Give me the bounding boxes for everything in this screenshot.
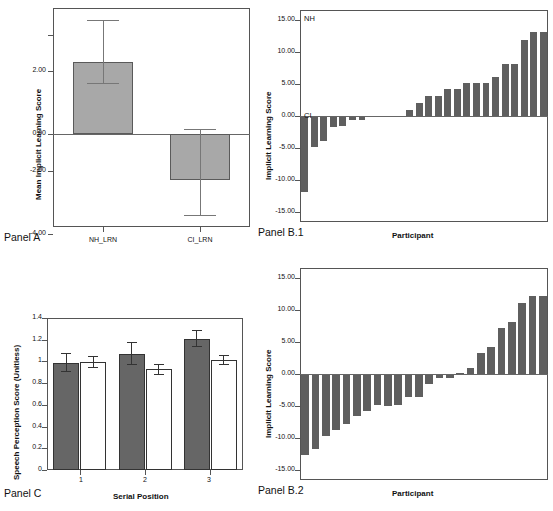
panel-c-error-bar: [184, 330, 210, 347]
y-tick-label: 1.4: [7, 313, 42, 320]
y-tick-mark: [295, 406, 300, 407]
y-tick-mark: [295, 342, 300, 343]
panel-b1-y-axis-title: Implicit Learning Score: [264, 92, 273, 180]
participant-bar: [339, 116, 346, 126]
y-tick-label: 0.00: [258, 369, 295, 376]
participant-bar: [301, 374, 308, 455]
panel-b2: Implicit Learning Score 15.0010.005.000.…: [258, 258, 553, 511]
y-tick-mark: [295, 180, 300, 181]
error-whisker: [196, 330, 197, 347]
participant-bar: [540, 32, 547, 116]
participant-bar: [374, 374, 381, 405]
y-tick-label: 0.4: [7, 422, 42, 429]
participant-bar: [322, 374, 329, 436]
panel-c-error-bar: [119, 342, 145, 365]
y-tick-mark: [295, 438, 300, 439]
y-tick-mark: [42, 361, 47, 362]
y-tick-label: 15.00: [258, 273, 295, 280]
panel-a-xtick-label-nh: NH_LRN: [73, 236, 133, 243]
participant-bar: [312, 374, 319, 449]
panel-a-caption: Panel A: [4, 231, 40, 243]
y-tick-mark: [42, 470, 47, 471]
y-tick-label: 0: [7, 465, 42, 472]
participant-bar: [425, 96, 432, 116]
panel-c-y-axis-title: Speech Perception Score (Unitless): [12, 345, 21, 480]
participant-bar: [487, 347, 494, 374]
participant-bar: [425, 374, 432, 384]
participant-bar: [363, 374, 370, 411]
error-cap: [192, 330, 202, 331]
panel-c-bar-open: [211, 360, 237, 470]
participant-bar: [444, 89, 451, 116]
y-tick-label: -15.00: [258, 465, 295, 472]
participant-bar: [492, 77, 499, 116]
panel-a-tick-2: [48, 71, 53, 72]
y-tick-mark: [295, 212, 300, 213]
participant-bar: [483, 83, 490, 116]
y-tick-label: 0.6: [7, 400, 42, 407]
y-tick-label: -15.00: [258, 207, 295, 214]
participant-bar: [343, 374, 350, 424]
y-tick-mark: [42, 340, 47, 341]
panel-b1: Implicit Learning Score 15.0010.005.000.…: [258, 0, 553, 258]
participant-bar: [384, 374, 391, 406]
panel-a-tick-neg4: [48, 234, 53, 235]
panel-a-xtick-label-ci: CI_LRN: [170, 236, 230, 243]
panel-c-error-bar: [211, 355, 237, 365]
panel-a-tick-label-1: 0.00: [10, 129, 46, 136]
participant-bar: [529, 296, 536, 374]
error-cap: [61, 353, 71, 354]
panel-a-y-axis-title: Mean Implicit Learning Score: [34, 89, 43, 200]
participant-bar: [511, 64, 518, 116]
y-tick-mark: [295, 278, 300, 279]
y-tick-label: 0.2: [7, 443, 42, 450]
participant-bar: [502, 64, 509, 116]
x-tick-mark: [145, 470, 146, 475]
error-whisker: [131, 342, 132, 365]
panel-b2-caption: Panel B.2: [258, 484, 304, 496]
y-tick-mark: [295, 470, 300, 471]
zero-line: [300, 374, 548, 375]
panel-a: Mean Implicit Learning Score 2.00 0.00 -…: [0, 0, 258, 258]
x-tick-mark: [80, 470, 81, 475]
y-tick-mark: [295, 310, 300, 311]
y-tick-label: 0.00: [258, 111, 295, 118]
participant-bar: [498, 328, 505, 374]
participant-bar: [405, 374, 412, 397]
error-cap: [88, 356, 98, 357]
zero-line: [300, 116, 548, 117]
y-tick-label: -10.00: [258, 175, 295, 182]
error-whisker: [66, 353, 67, 373]
y-tick-label: 15.00: [258, 15, 295, 22]
panel-a-tick-label-0: 2.00: [10, 66, 46, 73]
participant-bar: [332, 374, 339, 430]
error-cap: [88, 367, 98, 368]
participant-bar: [463, 83, 470, 116]
panel-c-xtick-label-3: 3: [186, 476, 232, 483]
participant-bar: [477, 353, 484, 374]
participant-bar: [301, 116, 308, 192]
panel-c-error-bar: [53, 353, 79, 373]
x-tick-mark: [210, 470, 211, 475]
y-tick-label: 5.00: [258, 79, 295, 86]
participant-bar: [435, 96, 442, 116]
error-cap: [61, 371, 71, 372]
error-cap: [154, 364, 164, 365]
y-tick-mark: [42, 318, 47, 319]
error-cap: [127, 364, 137, 365]
error-cap: [219, 355, 229, 356]
panel-c-error-bar: [146, 364, 172, 375]
participant-bar: [539, 296, 546, 374]
y-tick-label: 1.2: [7, 335, 42, 342]
panel-a-tick-4: [48, 35, 53, 36]
participant-bar: [394, 374, 401, 405]
panel-a-xtick-ci: [200, 227, 201, 232]
panel-c-bar-open: [80, 362, 106, 470]
y-tick-mark: [295, 20, 300, 21]
participant-bar: [330, 116, 337, 127]
panel-b2-x-axis-title: Participant: [392, 489, 433, 498]
error-cap: [154, 374, 164, 375]
panel-c-bar-filled: [119, 354, 145, 470]
panel-a-tick-label-2: -2.00: [10, 166, 46, 173]
error-cap: [219, 364, 229, 365]
